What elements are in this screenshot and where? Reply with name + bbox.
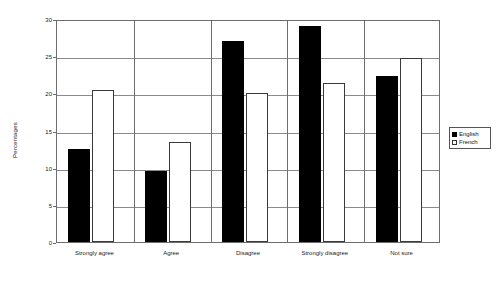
bar-groups xyxy=(57,21,439,242)
plot-area xyxy=(56,20,440,243)
y-tick-label: 25 xyxy=(10,54,56,60)
x-tick-label: Agree xyxy=(163,250,179,256)
bar-french xyxy=(246,93,268,242)
legend-item-english: English xyxy=(452,130,488,138)
legend-label-french: French xyxy=(459,138,478,146)
bar-english xyxy=(68,149,90,242)
bar-group xyxy=(134,21,211,242)
y-axis-ticks: 051015202530 xyxy=(6,20,56,243)
bar-french xyxy=(400,58,422,242)
x-tick-label: Strongly agree xyxy=(75,250,114,256)
x-axis-labels: Strongly agreeAgreeDisagreeStrongly disa… xyxy=(56,250,440,270)
x-tick-label: Not sure xyxy=(390,250,413,256)
bar-french xyxy=(323,83,345,242)
bar-french xyxy=(92,90,114,242)
y-tick-label: 10 xyxy=(10,166,56,172)
legend-item-french: French xyxy=(452,138,488,146)
y-tick-label: 5 xyxy=(10,203,56,209)
y-tick-label: 15 xyxy=(10,129,56,135)
outline-square-icon xyxy=(452,140,457,145)
y-tick-label: 0 xyxy=(10,240,56,246)
bar-group xyxy=(364,21,441,242)
legend-label-english: English xyxy=(459,130,479,138)
x-tick-label: Disagree xyxy=(236,250,260,256)
y-tick-label: 30 xyxy=(10,17,56,23)
bar-french xyxy=(169,142,191,242)
bar-group xyxy=(211,21,288,242)
bar-english xyxy=(145,171,167,242)
y-tick-mark xyxy=(53,243,56,244)
bar-group xyxy=(287,21,364,242)
bar-chart: Percentages 051015202530 Strongly agreeA… xyxy=(0,0,499,284)
bar-english xyxy=(299,26,321,242)
bar-english xyxy=(222,41,244,242)
filled-square-icon xyxy=(452,132,457,137)
bar-english xyxy=(376,76,398,242)
legend: English French xyxy=(449,127,491,149)
y-tick-label: 20 xyxy=(10,91,56,97)
bar-group xyxy=(57,21,134,242)
x-tick-label: Strongly disagree xyxy=(301,250,348,256)
